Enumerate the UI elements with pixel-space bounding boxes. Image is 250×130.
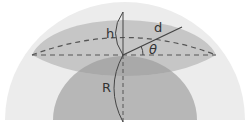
label-d: d (154, 20, 162, 35)
label-R: R (102, 80, 111, 95)
label-theta: θ (149, 42, 157, 57)
label-h: h (106, 26, 114, 41)
sphere-cap-diagram: h d θ R (0, 0, 250, 130)
